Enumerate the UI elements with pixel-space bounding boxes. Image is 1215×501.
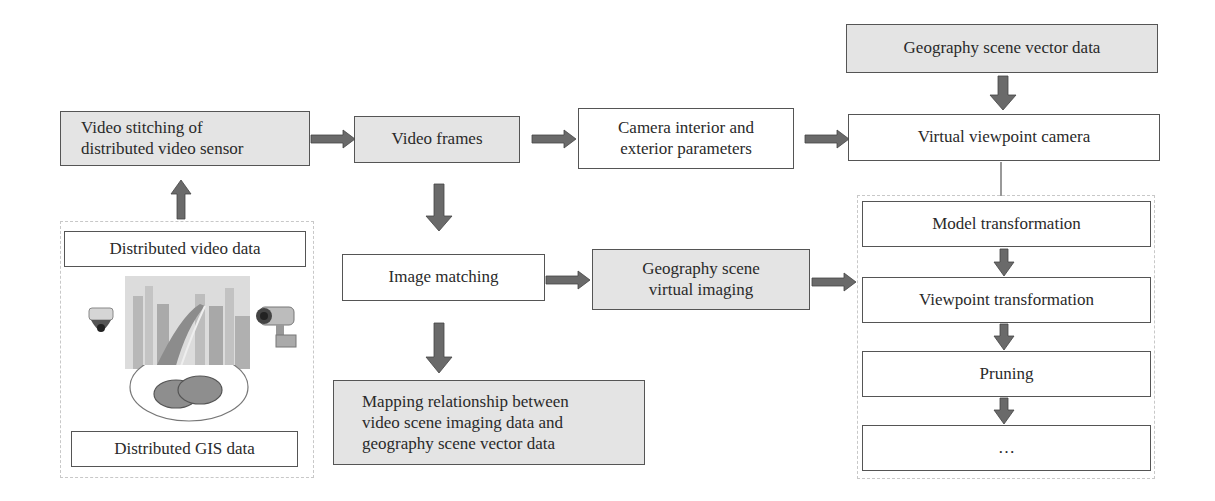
arrow-model-to-viewpoint [994,249,1014,276]
arrow-matching-to-mapping [426,323,452,373]
arrow-matching-to-virtual-imaging [546,271,590,289]
arrow-geo-vector-to-virtual-camera [990,76,1016,110]
arrow-camera-params-to-virtual-camera [805,130,849,148]
arrow-up-stitching [171,180,191,219]
arrow-virtual-imaging-to-viewpoint [812,273,856,291]
arrow-stitching-to-frames [311,130,355,148]
arrow-viewpoint-to-pruning [994,324,1014,350]
arrow-pruning-to-ellipsis [994,398,1014,424]
arrow-frames-to-matching [426,184,452,231]
arrow-frames-to-camera-params [532,130,576,148]
arrows-layer [0,0,1215,501]
